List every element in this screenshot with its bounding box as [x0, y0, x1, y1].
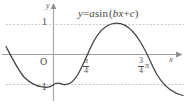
x-tick-label-three-pi-over-four: 3 4 π	[138, 57, 149, 76]
y-axis-label: y	[46, 2, 50, 10]
equation-function: sin	[95, 7, 108, 19]
x-axis-arrow-icon	[176, 52, 183, 58]
pi-symbol: π	[144, 62, 149, 70]
y-tick-label-one: 1	[42, 17, 47, 27]
fraction-numerator: π	[83, 57, 89, 65]
fraction-pi-over-four: π 4	[83, 57, 89, 76]
sine-curve-figure: y=asin (bx+c) y x O 1 −1 π 4 3 4 π	[0, 0, 190, 106]
origin-label: O	[40, 57, 47, 67]
y-tick-label-negative-one: −1	[36, 82, 47, 92]
x-tick-label-pi-over-four: π 4	[83, 57, 89, 76]
x-axis-label: x	[169, 55, 173, 64]
equation-annotation: y=asin (bx+c)	[78, 8, 139, 19]
equation-close-paren: )	[135, 7, 139, 19]
y-axis-arrow-icon	[51, 3, 57, 9]
fraction-denominator: 4	[83, 67, 89, 75]
